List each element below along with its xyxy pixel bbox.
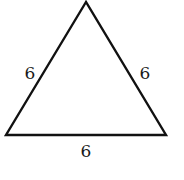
diagram-canvas: 6 6 6 (0, 0, 184, 180)
triangle-diagram: 6 6 6 (0, 0, 184, 180)
right-side-label: 6 (140, 63, 151, 83)
left-side-label: 6 (25, 63, 36, 83)
bottom-side-label: 6 (81, 141, 92, 161)
